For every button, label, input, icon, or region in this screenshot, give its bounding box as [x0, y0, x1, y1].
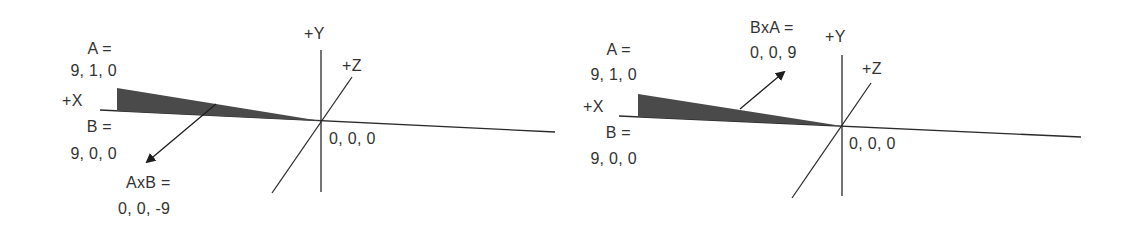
left-vector-a-label: A = — [60, 40, 112, 58]
right-z-axis-label: +Z — [862, 60, 882, 78]
right-origin-label: 0, 0, 0 — [849, 135, 896, 153]
right-vector-a-value: 9, 1, 0 — [560, 66, 637, 84]
diagram-graphics — [0, 0, 1140, 238]
left-cross-label: AxB = — [126, 174, 171, 192]
right-vector-b-value: 9, 0, 0 — [560, 150, 637, 168]
left-cross-value: 0, 0, -9 — [118, 200, 170, 218]
right-cross-label: BxA = — [750, 19, 794, 37]
right-cross-value: 0, 0, 9 — [750, 44, 797, 62]
right-vector-a-label: A = — [579, 41, 631, 59]
left-vector-a-value: 9, 1, 0 — [40, 62, 117, 80]
right-panel-graphics — [619, 55, 1081, 198]
right-x-axis-label: +X — [583, 98, 604, 116]
left-vector-b-value: 9, 0, 0 — [40, 145, 117, 163]
left-origin-label: 0, 0, 0 — [329, 130, 376, 148]
left-z-axis-label: +Z — [342, 57, 362, 75]
right-bxa-arrow — [740, 72, 784, 109]
right-y-axis-label: +Y — [825, 28, 846, 46]
left-panel-graphics — [100, 50, 555, 193]
right-ab-triangle — [638, 94, 842, 126]
left-x-axis-label: +X — [62, 92, 83, 110]
cross-product-diagram: A = 9, 1, 0 +X B = 9, 0, 0 AxB = 0, 0, -… — [0, 0, 1140, 238]
left-vector-b-label: B = — [60, 118, 112, 136]
left-y-axis-label: +Y — [304, 25, 325, 43]
right-vector-b-label: B = — [579, 124, 631, 142]
